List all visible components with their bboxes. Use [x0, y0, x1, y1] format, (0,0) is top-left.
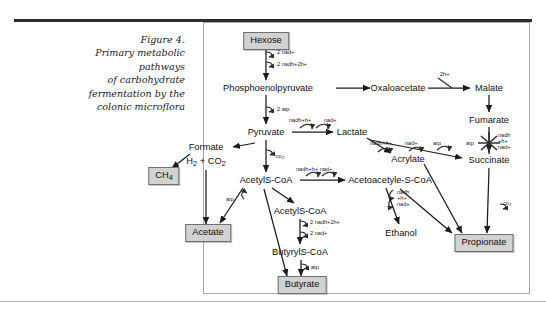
node-acrylate-label: Acrylate: [391, 154, 425, 164]
node-malate-label: Malate: [475, 83, 503, 93]
node-succinate-label: Succinate: [469, 155, 510, 165]
node-acetyl-s-coa-2-label: AcetylS-CoA: [274, 206, 327, 216]
cofactor-pyruvate-co2: co2: [276, 153, 284, 160]
node-phosphoenolpyruvate[interactable]: Phosphoenolpyruvate: [223, 83, 313, 94]
page-bottom-rule: [0, 301, 546, 302]
node-oxaloacetate-label: Oxaloacetate: [371, 83, 426, 93]
cofactor-lactate-acrylate-atp: atp: [433, 140, 441, 146]
node-hexose-label: Hexose: [250, 35, 282, 45]
cofactor-butyryl-nad: 2 nad+: [310, 230, 327, 236]
node-butyryl-s-coa[interactable]: ButyrylS-CoA: [272, 247, 328, 258]
cofactor-acetyl-coa-atp: atp: [226, 196, 234, 202]
cofactor-acetoacetyl-nad: nad+: [397, 201, 410, 207]
cofactor-fumarate-nad: nad+: [498, 144, 511, 150]
node-acetoacetyl-s-coa[interactable]: Acetoacetyle-S-CoA: [348, 175, 432, 186]
node-lactate[interactable]: Lactate: [337, 127, 368, 138]
caption-line-1: Primary metabolic: [10, 46, 185, 59]
figure-number: Figure 4.: [10, 33, 185, 46]
cofactor-fumarate-atp: atp: [466, 140, 474, 146]
node-ethanol-label: Ethanol: [385, 228, 417, 238]
node-oxaloacetate[interactable]: Oxaloacetate: [371, 83, 426, 94]
node-hexose[interactable]: Hexose: [243, 32, 289, 50]
node-succinate[interactable]: Succinate: [469, 155, 510, 166]
node-acetyl-s-coa[interactable]: AcetylS-CoA: [240, 175, 293, 186]
node-acetyl-s-coa-label: AcetylS-CoA: [240, 175, 293, 185]
node-propionate[interactable]: Propionate: [455, 234, 514, 252]
caption-line-3: of carbohydrate: [10, 73, 185, 86]
cofactor-butyryl-nadh: 2 nadh+2h+: [310, 219, 340, 225]
node-acetate-label: Acetate: [192, 227, 224, 237]
cofactor-hexose-nad: 2 nad+: [277, 49, 294, 55]
node-butyrate[interactable]: Butyrate: [278, 276, 327, 294]
node-fumarate-label: Fumarate: [469, 115, 509, 125]
node-hydrogen-carbon-dioxide[interactable]: H2 + CO2: [186, 156, 225, 167]
node-methane[interactable]: CH4: [148, 167, 179, 185]
caption-line-5: colonic microflora: [10, 100, 185, 113]
cofactor-hexose-nadh: 2 nadh+2h+: [277, 61, 307, 67]
node-acetate[interactable]: Acetate: [185, 224, 231, 242]
cofactor-butyrate-atp: atp: [311, 264, 319, 270]
node-acrylate[interactable]: Acrylate: [391, 154, 425, 165]
node-malate[interactable]: Malate: [475, 83, 503, 94]
cofactor-pep-atp: 2 atp: [277, 106, 289, 112]
node-ethanol[interactable]: Ethanol: [385, 228, 417, 239]
node-propionate-label: Propionate: [462, 237, 507, 247]
node-pyruvate[interactable]: Pyruvate: [248, 127, 285, 138]
cofactor-oxaloacetate-malate-2h: 2h+: [440, 71, 450, 77]
node-lactate-label: Lactate: [337, 127, 368, 137]
cofactor-pyruvate-lactate-nadh: nadh+h+: [289, 117, 311, 123]
cofactor-acetyl-acetoacetyl-nadh-nad: nadh+h+ nad+: [296, 166, 332, 172]
cofactor-lactate-acrylate-nad: nad+: [405, 140, 418, 146]
node-phosphoenolpyruvate-label: Phosphoenolpyruvate: [223, 83, 313, 93]
cofactor-pyruvate-lactate-nad: nad+: [324, 117, 337, 123]
node-formate-label: Formate: [189, 142, 224, 152]
node-butyryl-s-coa-label: ButyrylS-CoA: [272, 247, 328, 257]
node-acetoacetyl-s-coa-label: Acetoacetyle-S-CoA: [348, 175, 432, 185]
cofactor-lactate-acrylate-nadh: nadh+h+: [370, 140, 392, 146]
cofactor-succinate-co2: co2: [503, 200, 511, 207]
node-fumarate[interactable]: Fumarate: [469, 115, 509, 126]
caption-line-4: fermentation by the: [10, 87, 185, 100]
node-formate[interactable]: Formate: [189, 142, 224, 153]
node-acetyl-s-coa-2[interactable]: AcetylS-CoA: [274, 206, 327, 217]
figure-caption: Figure 4. Primary metabolic pathways of …: [10, 33, 185, 113]
caption-line-2: pathways: [10, 60, 185, 73]
node-pyruvate-label: Pyruvate: [248, 127, 285, 137]
node-butyrate-label: Butyrate: [285, 279, 320, 289]
